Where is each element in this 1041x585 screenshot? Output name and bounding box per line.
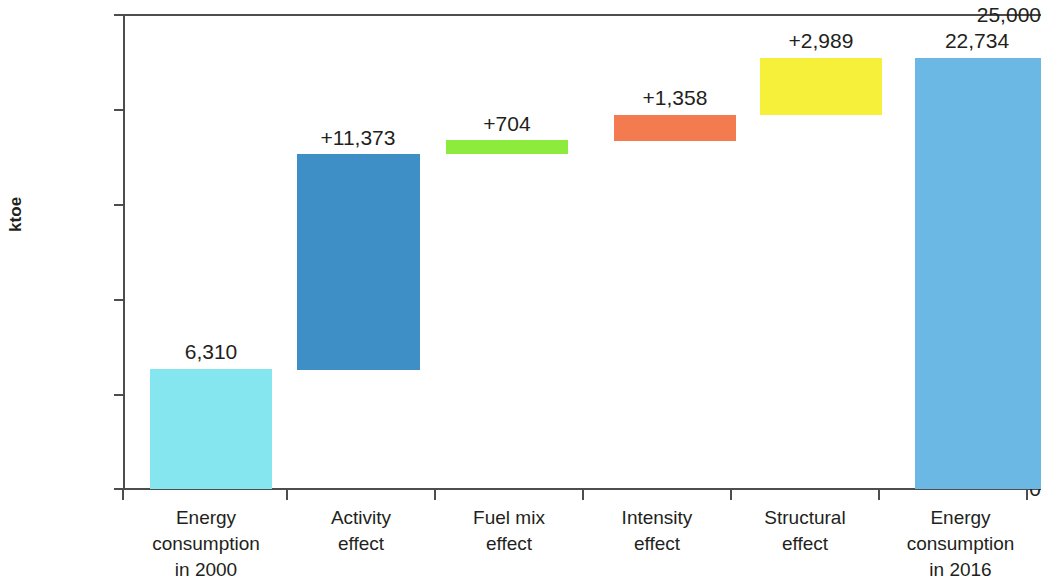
category-label-line: in 2000 — [124, 557, 288, 583]
category-label-line: Fuel mix — [436, 505, 582, 531]
y-axis-title: ktoe — [6, 197, 26, 232]
category-label-fuel-mix-effect: Fuel mix effect — [436, 505, 582, 557]
plot-top-rule — [123, 14, 1041, 16]
value-label-structural-effect: +2,989 — [756, 29, 886, 53]
category-label-intensity-effect: Intensity effect — [584, 505, 730, 557]
value-label-energy-consumption-2000: 6,310 — [150, 340, 272, 364]
y-tick-20000 — [114, 109, 125, 111]
y-tick-15000 — [114, 204, 125, 206]
x-tick-5 — [878, 489, 880, 500]
category-label-line: consumption — [880, 531, 1041, 557]
bar-intensity-effect — [614, 115, 736, 141]
category-label-line: Structural — [732, 505, 878, 531]
category-label-line: effect — [732, 531, 878, 557]
x-tick-6 — [1026, 489, 1028, 500]
y-tick-10000 — [114, 299, 125, 301]
value-label-fuel-mix-effect: +704 — [446, 112, 568, 136]
category-label-line: effect — [436, 531, 582, 557]
y-tick-label-25000: 25,000 — [937, 3, 1041, 27]
y-tick-25000 — [114, 14, 125, 16]
category-label-activity-effect: Activity effect — [288, 505, 434, 557]
category-label-line: Activity — [288, 505, 434, 531]
category-label-line: in 2016 — [880, 557, 1041, 583]
category-label-line: effect — [288, 531, 434, 557]
x-tick-3 — [582, 489, 584, 500]
x-tick-1 — [286, 489, 288, 500]
category-label-energy-consumption-2016: Energy consumption in 2016 — [880, 505, 1041, 583]
bar-energy-consumption-2016 — [915, 58, 1041, 489]
bar-energy-consumption-2000 — [150, 369, 272, 489]
y-axis-line — [123, 15, 125, 490]
x-tick-4 — [730, 489, 732, 500]
category-label-energy-consumption-2000: Energy consumption in 2000 — [124, 505, 288, 583]
category-label-line: effect — [584, 531, 730, 557]
x-tick-0 — [122, 489, 124, 500]
waterfall-chart: ktoe 25,000 20,000 15,000 10,000 5,000 0… — [0, 0, 1041, 585]
category-label-line: consumption — [124, 531, 288, 557]
y-tick-5000 — [114, 394, 125, 396]
bar-fuel-mix-effect — [446, 140, 568, 154]
category-label-line: Intensity — [584, 505, 730, 531]
category-label-structural-effect: Structural effect — [732, 505, 878, 557]
category-label-line: Energy — [124, 505, 288, 531]
value-label-intensity-effect: +1,358 — [610, 86, 740, 110]
value-label-activity-effect: +11,373 — [292, 126, 424, 150]
bar-structural-effect — [760, 58, 882, 115]
x-tick-2 — [434, 489, 436, 500]
value-label-energy-consumption-2016: 22,734 — [912, 29, 1041, 53]
category-label-line: Energy — [880, 505, 1041, 531]
bar-activity-effect — [297, 154, 420, 370]
